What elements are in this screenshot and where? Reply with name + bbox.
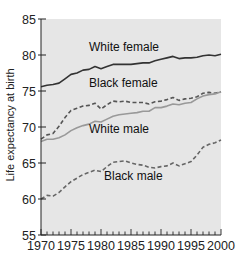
y-tick-label: 70 [22, 121, 36, 135]
label-black-male: Black male [104, 169, 163, 183]
x-tick-label: 1990 [147, 239, 175, 253]
y-tick-label: 85 [22, 13, 36, 27]
label-white-female: White female [89, 40, 159, 54]
y-tick-label: 80 [22, 49, 36, 63]
y-tick-label: 75 [22, 85, 36, 99]
x-tick-label: 1980 [87, 239, 115, 253]
x-tick-label: 1995 [177, 239, 205, 253]
x-tick-label: 2000 [207, 239, 235, 253]
x-tick-label: 1970 [27, 239, 55, 253]
life-expectancy-chart: 5560657075808519701975198019851990199520… [0, 0, 242, 263]
y-axis-label: Life expectancy at birth [4, 68, 16, 181]
x-tick-label: 1975 [57, 239, 85, 253]
y-tick-label: 65 [22, 157, 36, 171]
label-black-female: Black female [89, 76, 158, 90]
x-tick-label: 1985 [117, 239, 145, 253]
y-tick-label: 60 [22, 193, 36, 207]
label-white-male: White male [89, 122, 149, 136]
